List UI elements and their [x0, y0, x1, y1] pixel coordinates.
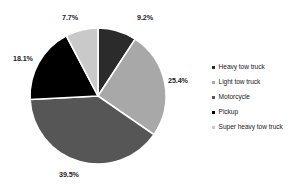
legend-item-pickup: Pickup — [212, 105, 304, 120]
pie-svg — [0, 0, 205, 191]
legend-item-label: Super heavy tow truck — [219, 124, 283, 131]
pie-plot-area: 9.2% 25.4% 39.5% 18.1% 7.7% — [0, 0, 205, 191]
legend-swatch-icon — [212, 96, 215, 99]
slice-value-label-heavy-tow-truck: 9.2% — [137, 14, 153, 21]
pie-slices — [30, 28, 166, 164]
legend-item-label: Motorcycle — [219, 94, 250, 101]
slice-value-label-light-tow-truck: 25.4% — [168, 77, 188, 84]
chart-legend: Heavy tow truck Light tow truck Motorcyc… — [212, 60, 304, 135]
slice-value-label-pickup: 18.1% — [13, 55, 33, 62]
pie-chart-figure: 9.2% 25.4% 39.5% 18.1% 7.7% Heavy tow tr… — [0, 0, 304, 191]
legend-swatch-icon — [212, 81, 215, 84]
legend-item-label: Pickup — [219, 109, 239, 116]
slice-value-label-motorcycle: 39.5% — [59, 171, 79, 178]
legend-item-light-tow-truck: Light tow truck — [212, 75, 304, 90]
legend-swatch-icon — [212, 111, 215, 114]
slice-value-label-super-heavy-tow-truck: 7.7% — [62, 14, 78, 21]
legend-swatch-icon — [212, 66, 215, 69]
legend-item-super-heavy-tow-truck: Super heavy tow truck — [212, 120, 304, 135]
legend-item-label: Light tow truck — [219, 79, 261, 86]
legend-item-motorcycle: Motorcycle — [212, 90, 304, 105]
legend-item-heavy-tow-truck: Heavy tow truck — [212, 60, 304, 75]
legend-item-label: Heavy tow truck — [219, 64, 265, 71]
legend-swatch-icon — [212, 126, 215, 129]
